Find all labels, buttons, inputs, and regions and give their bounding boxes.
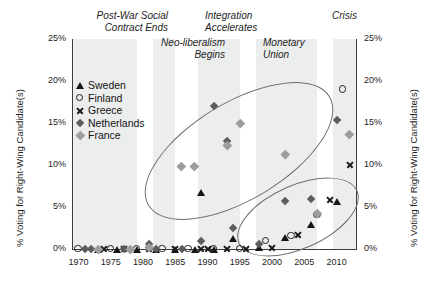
data-point-sweden-1989 xyxy=(197,189,205,196)
y-axis-left-line xyxy=(72,39,73,249)
data-point-sweden-1994 xyxy=(229,235,237,242)
y-axis-right-line xyxy=(356,39,357,249)
annotation-post-war-social-contract-ends: Post-War Social Contract Ends xyxy=(58,10,168,33)
y-axis-left-tick-10: 10% xyxy=(24,159,66,169)
data-point-greece-1990 xyxy=(204,245,212,253)
y-axis-right-tick-10: 10% xyxy=(364,159,406,169)
y-axis-right-tick-15: 15% xyxy=(364,117,406,127)
legend-label: France xyxy=(88,129,121,142)
y-axis-left-title: % Voting for Right-Wing Candidate(s) xyxy=(14,89,25,247)
annotation-neo-liberalism-begins: Neo-liberalism Begins xyxy=(115,37,225,60)
legend-marker-x-icon xyxy=(76,106,84,114)
y-axis-right-tick-0: 0% xyxy=(364,243,406,253)
band-post-war xyxy=(72,39,137,249)
chart-container: 0%5%10%15%20%25% 0%5%10%15%20%25% 197019… xyxy=(0,0,421,282)
y-axis-right-tick-20: 20% xyxy=(364,75,406,85)
y-axis-left-tick-15: 15% xyxy=(24,117,66,127)
y-axis-left-tick-20: 20% xyxy=(24,75,66,85)
y-axis-left-tick-5: 5% xyxy=(24,201,66,211)
legend-label: Greece xyxy=(88,104,122,117)
legend-marker-triangle-icon xyxy=(76,82,84,89)
annotation-integration-accelerates: Integration Accelerates xyxy=(205,10,315,33)
data-point-greece-2009 xyxy=(326,196,334,204)
legend-label: Sweden xyxy=(88,79,126,92)
y-axis-left-tick-25: 25% xyxy=(24,33,66,43)
data-point-greece-1996 xyxy=(242,245,250,253)
data-point-greece-2000 xyxy=(268,243,276,251)
annotation-crisis: Crisis xyxy=(332,10,392,22)
data-point-greece-2012 xyxy=(346,161,354,169)
x-axis-tick-2010: 2010 xyxy=(317,257,357,267)
y-axis-left-tick-0: 0% xyxy=(24,243,66,253)
data-point-sweden-2006 xyxy=(307,221,315,228)
data-point-greece-1993 xyxy=(223,245,231,253)
y-axis-right-tick-5: 5% xyxy=(364,201,406,211)
data-point-greece-2004 xyxy=(294,231,302,239)
annotation-monetary-union: Monetary Union xyxy=(263,37,373,60)
y-axis-right-title: % Voting for Right-Wing Candidate(s) xyxy=(408,89,419,247)
legend-label: Netherlands xyxy=(88,117,145,130)
legend-label: Finland xyxy=(88,92,122,105)
